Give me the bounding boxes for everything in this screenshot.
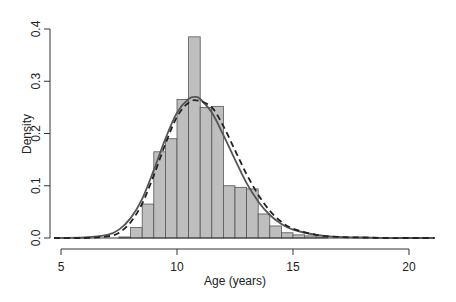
histogram-chart: 0.00.10.20.30.4 5101520 Density Age (yea…: [0, 0, 456, 302]
histogram-bar: [189, 37, 201, 238]
histogram-bar: [177, 100, 189, 238]
x-axis-label: Age (years): [204, 274, 266, 288]
histogram-bar: [165, 139, 177, 238]
histogram-bar: [270, 226, 282, 238]
histogram-bar: [200, 107, 212, 238]
histogram-bar: [212, 106, 224, 238]
x-tick-label: 5: [58, 260, 65, 274]
x-tick-label: 10: [170, 260, 184, 274]
histogram-bar: [281, 233, 293, 238]
x-tick-label: 15: [286, 260, 300, 274]
y-tick-label: 0.0: [29, 229, 43, 246]
chart-canvas: 0.00.10.20.30.4 5101520 Density Age (yea…: [0, 0, 456, 302]
y-axis-label: Density: [20, 114, 34, 154]
y-tick-label: 0.4: [29, 20, 43, 37]
histogram-bar: [258, 214, 270, 238]
histogram-bar: [131, 228, 143, 238]
histogram-bar: [223, 186, 235, 238]
histogram-bar: [142, 204, 154, 238]
y-tick-label: 0.3: [29, 73, 43, 90]
y-tick-label: 0.1: [29, 177, 43, 194]
histogram-bar: [235, 187, 247, 238]
x-axis: 5101520: [58, 249, 416, 274]
histogram-bars: [54, 37, 434, 238]
histogram-bar: [247, 189, 259, 238]
x-tick-label: 20: [402, 260, 416, 274]
